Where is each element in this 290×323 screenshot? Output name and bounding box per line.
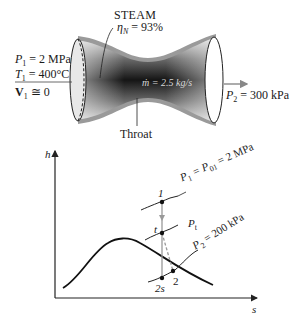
mass-flow-label: ṁ = 2.5 kg/s <box>142 78 192 88</box>
process-direction-arrow <box>159 215 165 221</box>
saturation-dome <box>63 238 213 288</box>
outlet-pressure-label: P2 = 300 kPa <box>226 89 289 104</box>
v1-value: ≅ 0 <box>31 85 50 99</box>
v1-subscript: 1 <box>24 92 28 101</box>
p2-value: = 300 kPa <box>240 88 289 102</box>
state-point-1 <box>160 200 164 204</box>
p2-subscript: 2 <box>233 95 237 104</box>
efficiency-value: = 93% <box>131 20 163 34</box>
throat-label: Throat <box>120 128 152 140</box>
state-label-t: t <box>154 224 157 235</box>
inlet-velocity-label: V1 ≅ 0 <box>15 86 50 101</box>
t1-symbol: T <box>15 67 22 81</box>
state-label-2s: 2s <box>155 283 165 294</box>
t1-value: = 400°C <box>29 67 70 81</box>
state-point-t <box>160 231 164 235</box>
state-point-2 <box>171 269 175 273</box>
isobar-pt-label: Pt <box>188 218 197 232</box>
y-axis-label: h <box>45 149 51 160</box>
x-axis-label: s <box>252 304 256 315</box>
eta-subscript: N <box>123 27 128 36</box>
pt-symbol: P <box>188 217 195 229</box>
pt-sub: t <box>195 223 197 232</box>
state-label-2: 2 <box>173 276 179 287</box>
state-point-2s <box>160 276 164 280</box>
diagram-canvas <box>0 0 290 323</box>
v1-symbol: V <box>15 85 24 99</box>
inlet-pressure-label: P1 = 2 MPa <box>15 53 71 68</box>
nozzle-outlet-opening <box>205 37 223 123</box>
inlet-temperature-label: T1 = 400°C <box>15 68 69 83</box>
state-label-1: 1 <box>158 188 164 199</box>
t1-subscript: 1 <box>22 74 26 83</box>
nozzle-efficiency-label: ηN = 93% <box>117 21 163 36</box>
actual-process-line <box>162 233 173 271</box>
p1-value: = 2 MPa <box>29 52 70 66</box>
